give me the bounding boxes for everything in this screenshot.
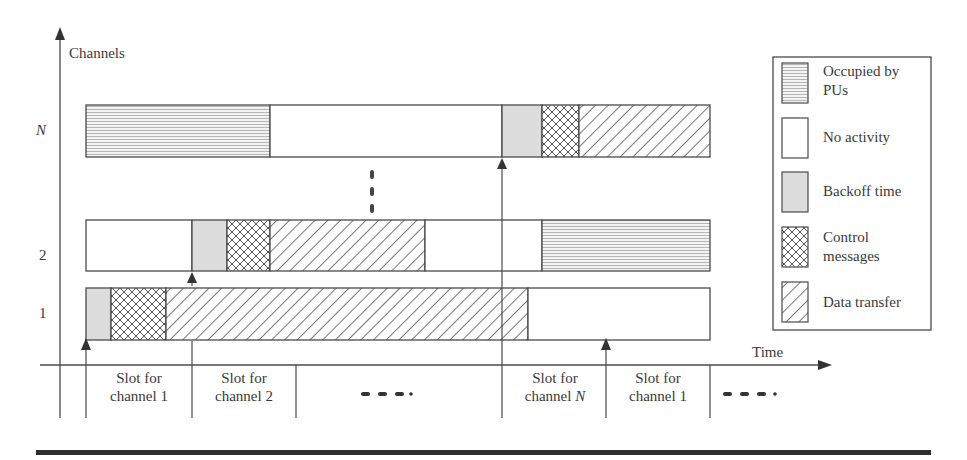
- legend-label-line1: No activity: [823, 128, 890, 147]
- horizontal-ellipsis-1: [361, 392, 413, 396]
- legend-label-backoff: Backoff time: [823, 182, 901, 201]
- slot-label-suffix: N: [575, 388, 585, 404]
- channel-row-n: [86, 105, 710, 157]
- segment-data: [166, 288, 528, 340]
- slot-label-text: channel 2: [215, 388, 273, 404]
- segment-backoff: [502, 105, 542, 157]
- bottom-rule: [36, 450, 931, 455]
- legend-label-no-activity: No activity: [823, 128, 890, 147]
- channel-label-1: 1: [39, 304, 47, 322]
- segment-none: [270, 105, 502, 157]
- slot-label-channel-1: Slot for channel 1: [87, 369, 191, 405]
- slot-label-line1: Slot for: [87, 369, 191, 387]
- legend-label-line2: PUs: [823, 81, 899, 100]
- legend-label-line2: messages: [823, 247, 880, 266]
- slot-label-line1: Slot for: [192, 369, 296, 387]
- legend-label-line1: Backoff time: [823, 182, 901, 201]
- arrow-up-icon: [187, 272, 197, 283]
- segment-data: [270, 220, 425, 271]
- legend-label-line1: Occupied by: [823, 62, 899, 81]
- legend-swatch-none: [782, 118, 808, 158]
- y-axis: [55, 27, 65, 418]
- slot-label-line2: channel 1: [606, 387, 710, 405]
- y-axis-label: Channels: [69, 44, 125, 62]
- slot-label-channel-2: Slot for channel 2: [192, 369, 296, 405]
- channel-label-2: 2: [39, 246, 47, 264]
- slot-label-line2: channel N: [503, 387, 607, 405]
- segment-occupied: [542, 220, 710, 271]
- legend-swatch-data: [782, 282, 808, 322]
- legend-label-line1: Control: [823, 228, 880, 247]
- slot-label-text: channel 1: [629, 388, 687, 404]
- segment-control: [227, 220, 270, 271]
- slot-label-text: channel 1: [110, 388, 168, 404]
- slot-label-line1: Slot for: [503, 369, 607, 387]
- slot-label-channel-n: Slot for channel N: [503, 369, 607, 405]
- channel-row-2: [86, 220, 710, 271]
- segment-none: [425, 220, 542, 271]
- legend-swatch-backoff: [782, 172, 808, 212]
- legend-label-line1: Data transfer: [823, 293, 901, 312]
- segment-occupied: [86, 105, 270, 157]
- slot-label-line2: channel 2: [192, 387, 296, 405]
- legend-label-control: Control messages: [823, 228, 880, 266]
- channel-row-1: [86, 288, 710, 340]
- slot-label-line2: channel 1: [87, 387, 191, 405]
- channel-label-n: N: [36, 121, 46, 139]
- segment-control: [111, 288, 166, 340]
- horizontal-ellipsis-2: [723, 392, 777, 396]
- legend-swatch-control: [782, 227, 808, 267]
- segment-none: [528, 288, 710, 340]
- legend-swatch-occupied: [782, 63, 808, 103]
- segment-none: [86, 220, 192, 271]
- vertical-ellipsis: [370, 170, 374, 213]
- arrow-up-icon: [497, 158, 507, 169]
- legend-label-data: Data transfer: [823, 293, 901, 312]
- x-axis-label: Time: [752, 343, 783, 361]
- segment-data: [579, 105, 710, 157]
- segment-backoff: [192, 220, 227, 271]
- slot-label-channel-1-repeat: Slot for channel 1: [606, 369, 710, 405]
- segment-backoff: [86, 288, 111, 340]
- slot-label-line1: Slot for: [606, 369, 710, 387]
- channel-rows: [86, 105, 710, 340]
- segment-control: [542, 105, 579, 157]
- slot-label-text: channel: [525, 388, 575, 404]
- legend-label-occupied: Occupied by PUs: [823, 62, 899, 100]
